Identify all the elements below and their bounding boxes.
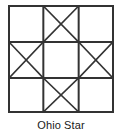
quilt-block-container — [8, 5, 114, 113]
quilt-block-figure: Ohio Star — [0, 0, 122, 138]
figure-caption: Ohio Star — [0, 118, 122, 132]
block-background — [8, 5, 114, 113]
ohio-star-block-diagram — [8, 5, 114, 113]
